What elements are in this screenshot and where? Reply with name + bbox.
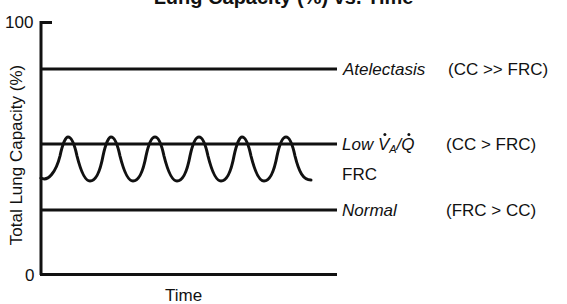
low-vq-label: Low VA/Q	[342, 136, 415, 155]
y-axis-label: Total Lung Capacity (%)	[7, 65, 27, 245]
atelectasis-relation: (CC >> FRC)	[448, 61, 548, 78]
normal-label: Normal	[342, 202, 397, 219]
q-dot-symbol: Q	[401, 136, 414, 153]
low-vq-prefix: Low	[342, 135, 378, 154]
v-subscript: A	[389, 143, 396, 155]
low-vq-relation: (CC > FRC)	[446, 136, 536, 153]
x-axis-label: Time	[165, 287, 202, 304]
y-tick-0: 0	[25, 267, 34, 284]
v-dot-symbol: V	[378, 136, 389, 153]
y-tick-100: 100	[5, 14, 33, 31]
frc-label: FRC	[342, 166, 377, 183]
normal-relation: (FRC > CC)	[446, 202, 536, 219]
atelectasis-label: Atelectasis	[343, 61, 425, 78]
lung-capacity-diagram: Lung Capacity (%) vs. Time 100 0 Total L…	[0, 0, 567, 304]
